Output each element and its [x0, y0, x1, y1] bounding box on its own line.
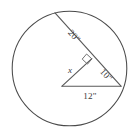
- right-angle-marker-tick-2: [82, 59, 87, 64]
- geometry-figure: 20" 10" 12" x: [0, 0, 139, 139]
- unknown-side-line: [62, 59, 92, 87]
- figure-canvas: 20" 10" 12" x: [0, 0, 139, 139]
- base-length-label: 12": [83, 91, 97, 101]
- chord-length-label: 20": [66, 28, 83, 45]
- unknown-side-label: x: [67, 65, 72, 75]
- short-leg-length-label: 10": [98, 67, 115, 84]
- right-angle-marker-tick: [82, 54, 86, 59]
